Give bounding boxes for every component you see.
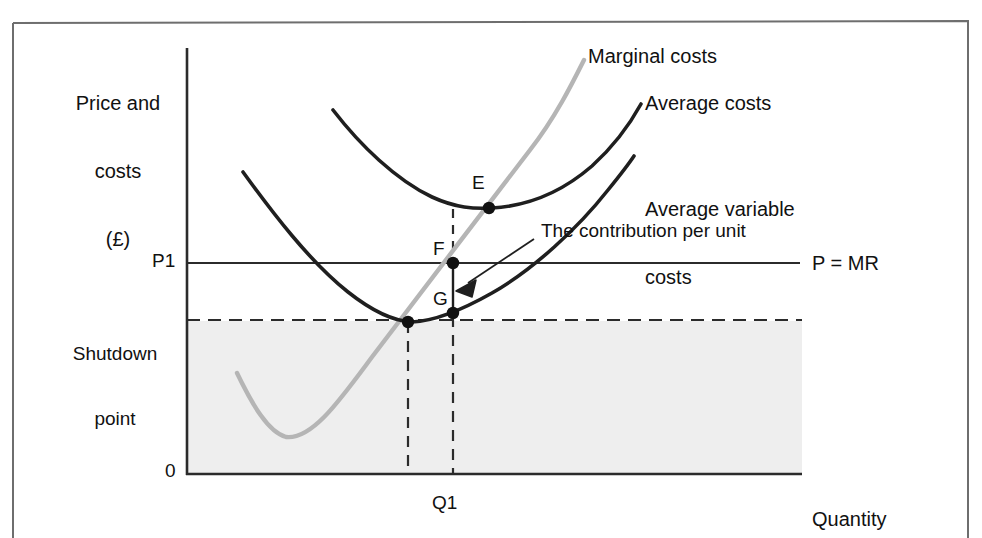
average-costs-label: Average costs: [645, 92, 771, 115]
marginal-costs-label: Marginal costs: [588, 45, 717, 68]
price-mr-label: P = MR: [812, 252, 879, 275]
average-costs-curve: [333, 104, 641, 208]
p1-tick-label: P1: [152, 250, 175, 272]
point-e-label: E: [472, 172, 485, 194]
shutdown-point-marker: [402, 316, 414, 328]
contribution-arrow-head: [456, 280, 476, 297]
q1-tick-label: Q1: [432, 492, 457, 514]
point-f-label: F: [433, 238, 445, 260]
point-e-marker: [483, 202, 495, 214]
origin-label: 0: [165, 460, 176, 482]
average-variable-costs-label-line-1: Average variable: [645, 198, 805, 221]
point-g-label: G: [433, 288, 448, 310]
x-axis-title: Quantity (units): [812, 462, 942, 538]
y-axis-title-line-2: costs: [58, 160, 178, 183]
point-g-marker: [447, 307, 459, 319]
y-axis-title-line-3: (£): [58, 228, 178, 251]
shaded-loss-region: [187, 321, 802, 474]
contribution-annotation-label: The contribution per unit: [541, 220, 746, 242]
contribution-arrow-line: [468, 239, 534, 283]
point-f-marker: [447, 257, 459, 269]
y-axis-title-line-1: Price and: [58, 92, 178, 115]
shutdown-point-label-line-1: Shutdown: [52, 343, 178, 365]
average-variable-costs-label-line-2: costs: [645, 266, 805, 289]
figure-container: Price and costs (£) Shutdown point P1 0 …: [0, 0, 982, 538]
shutdown-point-label-line-2: point: [52, 408, 178, 430]
average-variable-costs-label: Average variable costs: [645, 152, 805, 334]
x-axis-title-line-1: Quantity: [812, 508, 942, 531]
shutdown-point-label: Shutdown point: [52, 300, 178, 473]
